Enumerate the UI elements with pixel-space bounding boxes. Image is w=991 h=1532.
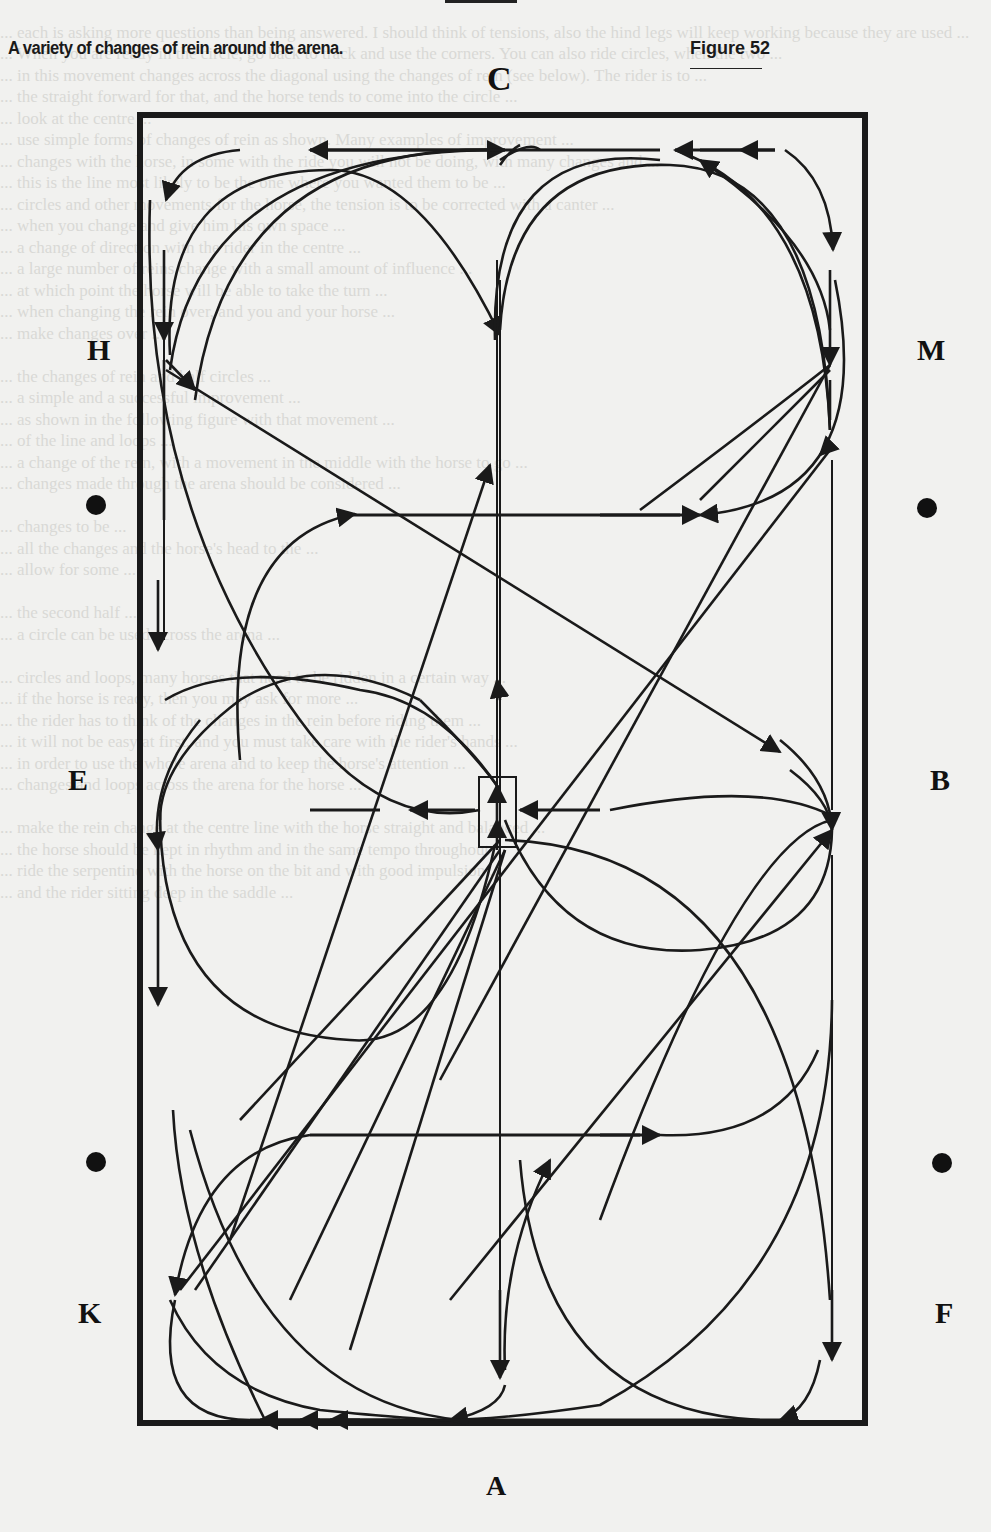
arena-lines (140, 115, 865, 1423)
arena-diagram (0, 0, 991, 1532)
